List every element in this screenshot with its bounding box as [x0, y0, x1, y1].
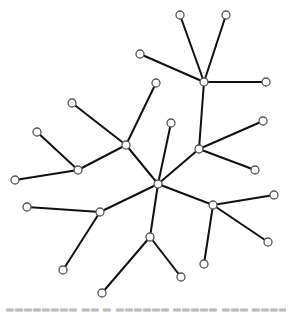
- edge-n0-n4: [100, 184, 158, 212]
- node-hub-n7: [74, 166, 82, 174]
- node-leaf-n16: [11, 176, 19, 184]
- node-leaf-n24: [177, 273, 185, 281]
- edge-n4-n22: [27, 207, 100, 212]
- node-hub-n1: [122, 141, 130, 149]
- node-leaf-n25: [98, 289, 106, 297]
- node-hub-n3: [200, 78, 208, 86]
- node-leaf-n12: [136, 50, 144, 58]
- node-leaf-n13: [152, 79, 160, 87]
- edge-n3-n9: [180, 15, 204, 82]
- node-leaf-n8: [167, 119, 175, 127]
- figure-caption-cropped: ▂▂▂▂▂▂▂▂ ▂▂ ▂ ▂▂▂▂▂▂ ▂▂▂▂▂ ▂▂▂ ▂▂▂▂ ▂ ▂▂…: [6, 300, 286, 312]
- node-leaf-n10: [222, 11, 230, 19]
- edge-n4-n23: [63, 212, 100, 270]
- node-leaf-n17: [259, 117, 267, 125]
- edge-n1-n14: [72, 103, 126, 145]
- edge-n2-n17: [199, 121, 263, 149]
- node-leaf-n14: [68, 99, 76, 107]
- edge-n7-n15: [37, 132, 78, 170]
- edge-n0-n5: [158, 184, 213, 205]
- edge-n7-n16: [15, 170, 78, 180]
- edge-n3-n12: [140, 54, 204, 82]
- node-leaf-n22: [23, 203, 31, 211]
- node-leaf-n19: [270, 191, 278, 199]
- edge-n0-n6: [150, 184, 158, 237]
- node-hub-n6: [146, 233, 154, 241]
- node-leaf-n21: [200, 260, 208, 268]
- edge-n6-n24: [150, 237, 181, 277]
- node-hub-n4: [96, 208, 104, 216]
- node-leaf-n18: [251, 166, 259, 174]
- node-leaf-n11: [262, 78, 270, 86]
- node-leaf-n20: [264, 238, 272, 246]
- edge-n3-n10: [204, 15, 226, 82]
- edge-n1-n7: [78, 145, 126, 170]
- node-hub-n5: [209, 201, 217, 209]
- edge-n2-n18: [199, 149, 255, 170]
- node-leaf-n15: [33, 128, 41, 136]
- edges-layer: [15, 15, 274, 293]
- node-hub-n2: [195, 145, 203, 153]
- node-root-hub-n0: [154, 180, 162, 188]
- nodes-layer: [11, 11, 278, 297]
- edge-n5-n21: [204, 205, 213, 264]
- edge-n1-n13: [126, 83, 156, 145]
- edge-n6-n25: [102, 237, 150, 293]
- edge-n5-n19: [213, 195, 274, 205]
- node-leaf-n9: [176, 11, 184, 19]
- edge-n5-n20: [213, 205, 268, 242]
- edge-n2-n3: [199, 82, 204, 149]
- edge-n0-n1: [126, 145, 158, 184]
- node-leaf-n23: [59, 266, 67, 274]
